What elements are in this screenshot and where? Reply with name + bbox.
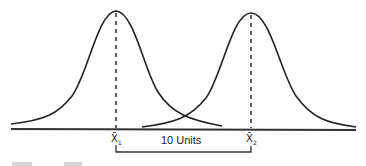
two-normal-curves-diagram: X̄ 1 X̄ 2 10 Units xyxy=(0,0,366,166)
mean-subscript-2: 2 xyxy=(253,139,257,146)
separation-label: 10 Units xyxy=(161,134,202,146)
cropped-caption-fragment xyxy=(12,162,32,166)
normal-curve-1 xyxy=(11,11,222,126)
mean-label-2: X̄ xyxy=(246,132,253,144)
mean-label-1: X̄ xyxy=(111,132,118,144)
separation-bracket xyxy=(116,145,251,152)
mean-subscript-1: 1 xyxy=(118,139,122,146)
x-axis-baseline xyxy=(11,129,356,130)
cropped-caption-fragment xyxy=(64,162,82,166)
